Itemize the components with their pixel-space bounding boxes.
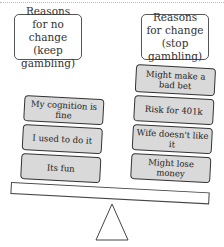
- right-reasons-stack: Might make a bad bet Risk for 401k Wife …: [130, 64, 216, 186]
- fulcrum-triangle-icon: [92, 202, 132, 242]
- left-reason-card: I used to do it: [22, 124, 103, 154]
- right-reason-card: Wife doesn't like it: [132, 124, 213, 154]
- top-dotted-divider: [0, 2, 224, 3]
- left-reason-card: My cognition is fine: [23, 95, 104, 125]
- left-reasons-stack: My cognition is fine I used to do it Its…: [20, 95, 104, 186]
- right-reason-card: Might lose money: [130, 153, 211, 183]
- left-reason-card: Its fun: [20, 153, 101, 183]
- right-header-text: Reasons for change (stop gambling): [144, 11, 206, 63]
- left-header-box: Reasons for no change (keep gambling): [14, 14, 82, 60]
- right-reason-card: Risk for 401k: [133, 95, 214, 125]
- left-header-text: Reasons for no change (keep gambling): [17, 5, 79, 70]
- right-header-box: Reasons for change (stop gambling): [141, 14, 209, 60]
- right-reason-card: Might make a bad bet: [135, 64, 216, 96]
